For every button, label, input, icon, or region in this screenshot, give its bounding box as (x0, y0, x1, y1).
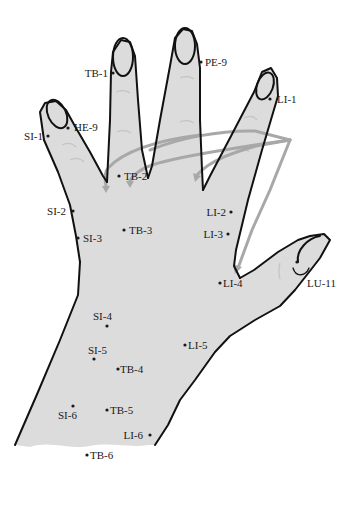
acupoint-pe-9: PE-9 (199, 56, 227, 68)
point-label: LI-3 (203, 228, 223, 240)
point-label: TB-5 (110, 404, 134, 416)
point-label: LI-5 (188, 339, 208, 351)
point-label: LI-6 (123, 429, 143, 441)
point-label: TB-6 (90, 449, 114, 461)
point-label: SI-4 (93, 310, 112, 322)
point-label: SI-1 (24, 130, 43, 142)
point-label: SI-6 (58, 409, 77, 421)
point-label: TB-3 (129, 224, 153, 236)
point-label: LU-11 (307, 277, 336, 289)
point-label: TB-4 (120, 363, 144, 375)
point-label: LI-4 (223, 277, 243, 289)
point-label: TB-1 (85, 67, 108, 79)
acupoint-li-4: LI-4 (218, 277, 243, 289)
point-label: PE-9 (205, 56, 228, 68)
point-label: SI-2 (47, 205, 66, 217)
point-label: LI-2 (206, 206, 226, 218)
acupoint-li-5: LI-5 (183, 339, 208, 351)
point-label: SI-3 (83, 232, 102, 244)
point-label: TB-2 (124, 170, 147, 182)
hand-silhouette (15, 29, 330, 447)
acupoint-tb-4: TB-4 (116, 363, 143, 375)
hand-acupoint-diagram: PE-9 TB-1 LI-1 HE-9 SI-1 TB-2 SI-2 LI-2 (0, 0, 356, 508)
point-label: LI-1 (277, 93, 297, 105)
acupoint-tb-6: TB-6 (85, 449, 113, 461)
point-label: SI-5 (88, 344, 107, 356)
point-label: HE-9 (74, 121, 98, 133)
acupoint-tb-5: TB-5 (105, 404, 133, 416)
